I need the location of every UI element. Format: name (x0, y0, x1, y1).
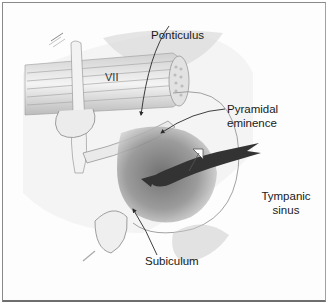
small-process (83, 251, 95, 261)
label-pyramidal-eminence-line2: eminence (227, 117, 277, 130)
label-ponticulus: Ponticulus (151, 29, 204, 42)
label-subiculum: Subiculum (145, 255, 199, 268)
figure-frame: VII Ponticulus Pyramidal eminence Tympan… (2, 2, 326, 302)
label-nerve-vii: VII (105, 71, 118, 84)
round-window-niche (95, 211, 127, 253)
facial-nerve-bundle (25, 53, 189, 115)
label-tympanic-sinus-line1: Tympanic (258, 190, 314, 203)
label-tympanic-sinus-line2: sinus (258, 204, 314, 217)
hatching-lines (49, 37, 65, 47)
label-pyramidal-eminence-line1: Pyramidal (227, 103, 278, 116)
